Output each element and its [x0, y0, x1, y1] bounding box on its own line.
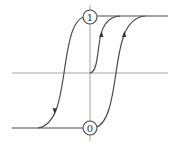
- marker-label-zero: 0: [87, 123, 93, 134]
- inner-magnetization-curve: [90, 16, 120, 73]
- marker-state-one: 1: [83, 10, 97, 24]
- left-branch-curve: [38, 17, 84, 128]
- hysteresis-svg: 1 0: [0, 0, 175, 146]
- right-branch-curve: [96, 16, 145, 127]
- marker-state-zero: 0: [83, 121, 97, 135]
- arrow-up-icon: [99, 31, 103, 37]
- hysteresis-diagram: 1 0: [0, 0, 175, 146]
- marker-label-one: 1: [87, 12, 93, 23]
